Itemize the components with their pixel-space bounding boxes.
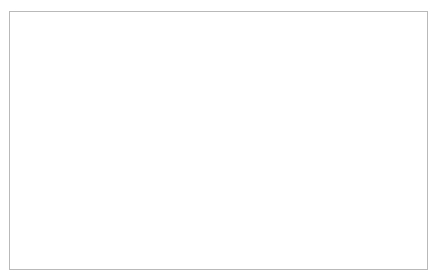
chart-container: 020406080100120140160180200 196519671969…	[0, 0, 438, 278]
chart-frame	[9, 11, 428, 270]
